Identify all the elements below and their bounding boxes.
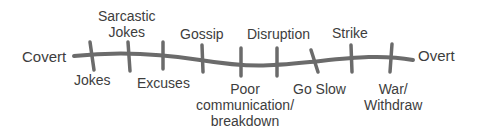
label-line: Sarcastic xyxy=(98,8,156,24)
label-covert: Covert xyxy=(22,49,66,65)
label-war-withdraw: War/ Withdraw xyxy=(364,81,422,113)
tick-8 xyxy=(351,45,352,72)
label-line: Poor xyxy=(196,81,294,97)
curve xyxy=(74,53,413,65)
label-line: Withdraw xyxy=(364,97,422,113)
label-line: breakdown xyxy=(196,113,294,129)
label-strike: Strike xyxy=(332,25,368,41)
label-overt: Overt xyxy=(418,48,455,64)
tick-4 xyxy=(202,45,203,72)
label-line: War/ xyxy=(364,81,422,97)
label-jokes: Jokes xyxy=(74,72,111,88)
label-disruption: Disruption xyxy=(247,26,310,42)
label-poor-communication: Poor communication/ breakdown xyxy=(196,81,294,129)
label-line: communication/ xyxy=(196,97,294,113)
tick-9 xyxy=(390,44,392,72)
label-excuses: Excuses xyxy=(137,75,190,91)
label-sarcastic-jokes: Sarcastic Jokes xyxy=(98,8,156,40)
label-gossip: Gossip xyxy=(180,26,224,42)
tick-2 xyxy=(128,42,130,71)
label-go-slow: Go Slow xyxy=(293,81,346,97)
label-line: Jokes xyxy=(98,24,156,40)
tick-1 xyxy=(90,42,94,70)
